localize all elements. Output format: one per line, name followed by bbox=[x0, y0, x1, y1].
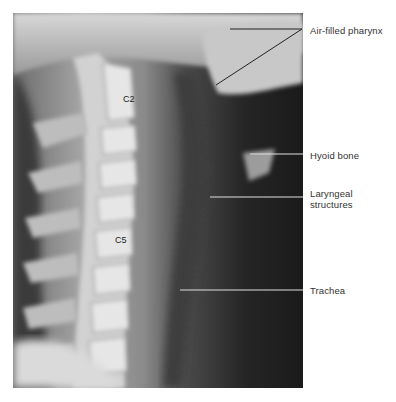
pharynx-leader-diagonal bbox=[216, 29, 302, 85]
label-air-filled-pharynx: Air-filled pharynx bbox=[310, 25, 383, 36]
vertebra-label-c5: C5 bbox=[115, 235, 127, 245]
label-laryngeal-structures: Laryngeal structures bbox=[310, 188, 380, 210]
label-trachea: Trachea bbox=[310, 285, 345, 296]
label-hyoid-bone: Hyoid bone bbox=[310, 150, 359, 161]
vertebra-label-c2: C2 bbox=[123, 94, 135, 104]
